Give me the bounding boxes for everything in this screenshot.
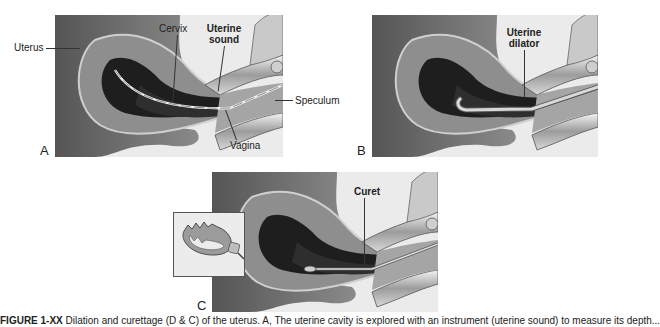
curet-illustration — [212, 172, 438, 312]
uterus-sound-illustration — [55, 15, 283, 157]
leader-curet — [364, 198, 365, 268]
label-uterine-sound: Uterine sound — [200, 23, 248, 45]
curet-tip-closeup-icon — [174, 213, 244, 276]
panel-letter-b: B — [357, 143, 366, 158]
label-uterine-sound-line2: sound — [209, 34, 239, 45]
leader-uterus — [46, 48, 80, 49]
panel-b-illustration — [372, 15, 598, 157]
label-uterine-dilator-line1: Uterine — [507, 27, 541, 38]
figure-caption-prefix: FIGURE 1-XX — [0, 315, 63, 326]
panel-letter-a: A — [40, 143, 49, 158]
label-uterine-dilator-line2: dilator — [509, 38, 540, 49]
curet-tip-inset — [173, 212, 245, 277]
label-uterine-sound-line1: Uterine — [207, 23, 241, 34]
leader-uterine-dilator — [524, 50, 525, 98]
panel-c-illustration — [212, 172, 438, 312]
panel-letter-c: C — [197, 298, 206, 313]
label-uterine-dilator: Uterine dilator — [500, 27, 548, 49]
label-curet: Curet — [350, 186, 384, 197]
label-uterus: Uterus — [14, 42, 43, 53]
label-cervix: Cervix — [159, 23, 187, 34]
uterine-dilator-illustration — [372, 15, 598, 157]
leader-speculum — [275, 100, 293, 101]
figure-caption-text: Dilation and curettage (D & C) of the ut… — [66, 315, 660, 326]
figure-caption: FIGURE 1-XX Dilation and curettage (D & … — [0, 315, 613, 327]
label-vagina: Vagina — [230, 140, 260, 151]
label-speculum: Speculum — [295, 95, 339, 106]
panel-a-illustration — [55, 15, 283, 157]
